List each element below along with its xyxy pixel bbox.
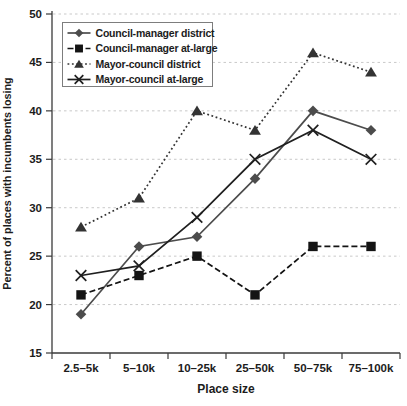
y-axis-title: Percent of places with incumbents losing xyxy=(1,77,13,289)
series-1-marker-0 xyxy=(76,290,85,299)
legend-item-label: Council-manager district xyxy=(96,27,216,39)
series-0-marker-5 xyxy=(366,125,377,136)
series-1-marker-5 xyxy=(366,242,375,251)
x-tick-label: 2.5–5k xyxy=(63,362,99,374)
chart-figure: 15202530354045502.5–5k5–10k10–25k25–50k5… xyxy=(0,0,407,406)
x-tick-label: 5–10k xyxy=(123,362,156,374)
y-tick-label: 15 xyxy=(29,347,42,359)
series-2-marker-1 xyxy=(133,193,145,203)
x-tick-label: 25–50k xyxy=(236,362,275,374)
series-2-marker-4 xyxy=(307,47,319,57)
y-tick-label: 45 xyxy=(29,56,42,68)
legend-item-label: Council-manager at-large xyxy=(96,42,218,54)
legend-item-label: Mayor-council district xyxy=(96,58,201,70)
legend-marker-1 xyxy=(75,45,83,53)
series-line-0 xyxy=(81,111,371,314)
series-line-1 xyxy=(81,246,371,294)
series-line-3 xyxy=(81,130,371,275)
y-tick-label: 30 xyxy=(29,202,42,214)
legend-item-label: Mayor-council at-large xyxy=(96,73,204,85)
x-tick-label: 10–25k xyxy=(178,362,217,374)
series-1-marker-2 xyxy=(192,251,201,260)
y-tick-label: 25 xyxy=(29,250,42,262)
y-tick-label: 40 xyxy=(29,105,42,117)
line-chart: 15202530354045502.5–5k5–10k10–25k25–50k5… xyxy=(0,0,407,406)
series-2-marker-5 xyxy=(365,67,377,77)
x-axis-title: Place size xyxy=(197,382,255,396)
x-tick-label: 50–75k xyxy=(294,362,333,374)
x-tick-label: 75–100k xyxy=(349,362,394,374)
y-tick-label: 35 xyxy=(29,153,42,165)
series-2-marker-3 xyxy=(249,125,261,135)
series-1-marker-4 xyxy=(308,242,317,251)
y-tick-label: 50 xyxy=(29,8,42,20)
series-1-marker-1 xyxy=(134,271,143,280)
series-1-marker-3 xyxy=(250,290,259,299)
series-2-marker-0 xyxy=(75,222,87,232)
y-tick-label: 20 xyxy=(29,299,42,311)
